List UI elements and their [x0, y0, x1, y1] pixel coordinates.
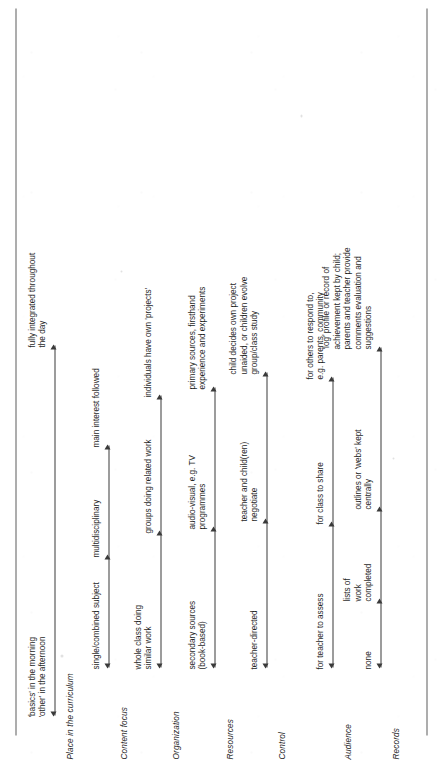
- scan-speck: [120, 270, 122, 272]
- continuum-stop-label: whole class doing similar work: [133, 604, 154, 669]
- arrow-head-left-icon: [104, 663, 110, 668]
- continuum-stop-label: 'log' profile or record of achievement k…: [321, 247, 374, 349]
- continuum-axis: [154, 0, 167, 777]
- arrow-head-tick-icon: [328, 522, 334, 527]
- arrow-head-right-icon: [262, 372, 268, 377]
- arrow-head-left-icon: [262, 663, 268, 668]
- row-label-records: Records: [391, 727, 400, 759]
- continuum-stop-label: main interest followed: [91, 368, 102, 447]
- arrow-head-tick-icon: [262, 519, 268, 524]
- scan-speck: [60, 654, 63, 657]
- continuum-stop-label: single/combined subject: [91, 582, 102, 669]
- continuum-stop-label: teacher and child(ren) negotiate: [239, 441, 260, 521]
- continuum-axis: [326, 0, 339, 777]
- arrow-head-left-icon: [50, 711, 56, 716]
- continuum-row: Content focussingle/combined subjectmult…: [72, 0, 130, 777]
- scanned-page: Place in the curriculum'basics' in the m…: [0, 0, 439, 777]
- continuum-row: Controlteacher-directedteacher and child…: [230, 0, 288, 777]
- continuum-rows: Place in the curriculum'basics' in the m…: [0, 0, 439, 777]
- arrow-head-tick-icon: [104, 555, 110, 560]
- arrow-head-left-icon: [328, 663, 334, 668]
- continuum-stop-label: groups doing related work: [143, 439, 154, 533]
- scan-speck: [300, 114, 302, 117]
- continuum-stop-label: for class to share: [315, 462, 326, 524]
- continuum-row: Place in the curriculum'basics' in the m…: [18, 0, 76, 777]
- arrow-head-left-icon: [376, 663, 382, 668]
- arrow-head-tick-icon: [156, 531, 162, 536]
- arrow-head-left-icon: [156, 663, 162, 668]
- arrow-head-tick-icon: [376, 599, 382, 604]
- continuum-stop-label: individuals have own 'projects': [143, 287, 154, 397]
- arrow-head-left-icon: [210, 663, 216, 668]
- arrow-head-right-icon: [328, 377, 334, 382]
- continuum-stop-label: fully integrated throughout the day: [27, 252, 48, 347]
- row-label-control: Control: [277, 732, 286, 759]
- continuum-stop-label: lists of work completed: [342, 563, 374, 601]
- continuum-axis: [374, 0, 387, 777]
- continuum-row: Resourcessecondary sources (book-based)a…: [178, 0, 236, 777]
- continuum-stop-label: secondary sources (book-based): [187, 600, 208, 669]
- continuum-axis: [102, 0, 115, 777]
- arrow-head-right-icon: [104, 445, 110, 450]
- continuum-stop-label: for teacher to assess: [315, 593, 326, 669]
- arrow-head-right-icon: [156, 395, 162, 400]
- arrow-head-right-icon: [376, 347, 382, 352]
- continuum-row: Organizationwhole class doing similar wo…: [124, 0, 182, 777]
- axis-line: [54, 345, 55, 715]
- arrow-head-right-icon: [50, 345, 56, 350]
- arrow-head-right-icon: [210, 387, 216, 392]
- arrow-head-tick-icon: [210, 527, 216, 532]
- arrow-head-tick-icon: [376, 507, 382, 512]
- scan-speck: [392, 457, 394, 459]
- continuum-axis: [260, 0, 273, 777]
- continuum-stop-label: none: [363, 651, 374, 669]
- continuum-stop-label: outlines or 'webs' kept centrally: [353, 429, 374, 509]
- continuum-axis: [208, 0, 221, 777]
- continuum-stop-label: 'basics' in the morning 'other' in the a…: [27, 636, 48, 717]
- continuum-stop-label: primary sources, firsthand experience an…: [187, 286, 208, 389]
- continuum-stop-label: teacher-directed: [249, 610, 260, 669]
- continuum-stop-label: child decides own project unaided, or ch…: [228, 276, 260, 374]
- continuum-row: Recordsnonelists of work completedoutlin…: [344, 0, 402, 777]
- continuum-stop-label: multidisciplinary: [91, 499, 102, 557]
- continuum-axis: [48, 0, 61, 777]
- continuum-stop-label: audio-visual, e.g. TV programmes: [187, 455, 208, 530]
